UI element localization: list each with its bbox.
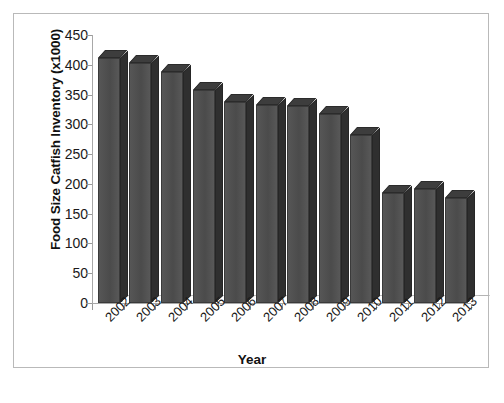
bar-side-face — [278, 98, 286, 303]
bar-front-face — [414, 189, 436, 303]
bar-side-face — [183, 65, 191, 303]
bar — [445, 198, 467, 303]
bar-side-face — [404, 186, 412, 303]
bar-front-face — [161, 72, 183, 303]
bar — [224, 102, 246, 303]
bar-front-face — [319, 114, 341, 303]
bar-side-face — [309, 99, 317, 303]
bar-front-face — [445, 198, 467, 303]
bar-front-face — [350, 135, 372, 303]
bar-side-face — [120, 50, 128, 303]
bar-side-face — [246, 95, 254, 303]
bar-front-face — [287, 106, 309, 303]
bar-side-face — [372, 128, 380, 303]
bar-front-face — [98, 58, 120, 303]
bar-side-face — [151, 56, 159, 303]
bar-front-face — [256, 105, 278, 303]
bar — [350, 135, 372, 303]
x-axis-title: Year — [14, 352, 490, 367]
bar-front-face — [129, 63, 151, 303]
bar — [414, 189, 436, 303]
bar-side-face — [215, 83, 223, 303]
bar-side-face — [436, 181, 444, 303]
bar-series — [14, 14, 488, 367]
bar — [161, 72, 183, 303]
bar — [193, 90, 215, 303]
bar-front-face — [382, 193, 404, 303]
bar-front-face — [193, 90, 215, 303]
bar — [256, 105, 278, 303]
bar — [287, 106, 309, 303]
bar-front-face — [224, 102, 246, 303]
bar — [129, 63, 151, 303]
bar — [382, 193, 404, 303]
bar-side-face — [467, 190, 475, 303]
bar — [98, 58, 120, 303]
chart-frame: Food Size Catfish Inventory (x1000) 0501… — [13, 13, 489, 368]
bar-side-face — [341, 107, 349, 303]
bar — [319, 114, 341, 303]
